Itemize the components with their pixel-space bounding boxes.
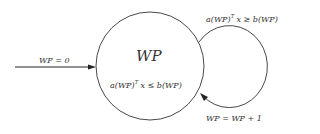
state-condition-prefix: a(WP): [110, 81, 135, 90]
loop-condition: a(WP)T x ≥ b(WP): [206, 14, 278, 24]
loop-condition-suffix: x ≥ b(WP): [237, 15, 278, 24]
state-condition-suffix: x ≤ b(WP): [141, 81, 182, 90]
entry-arrowhead-icon: [88, 65, 96, 70]
loop-update-text: WP = WP + 1: [206, 114, 262, 123]
state-circle: [96, 12, 204, 120]
loop-condition-prefix: a(WP): [206, 15, 231, 24]
entry-label-text: WP = 0: [39, 56, 69, 65]
state-name-text: WP: [136, 47, 162, 65]
loop-update-label: WP = WP + 1: [206, 115, 262, 123]
self-loop-arc: [199, 26, 267, 108]
state-name: WP: [136, 49, 162, 64]
entry-label: WP = 0: [39, 57, 69, 65]
state-condition: a(WP)T x ≤ b(WP): [110, 80, 182, 90]
